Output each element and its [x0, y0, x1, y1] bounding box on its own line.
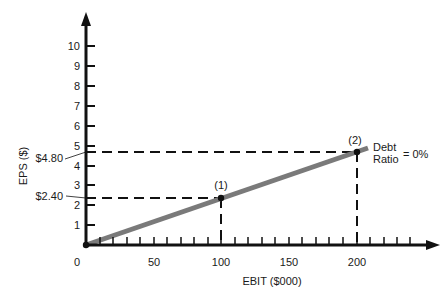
series-label-line2: Ratio [373, 153, 399, 165]
y-tick-label: 2 [74, 199, 80, 211]
eps-series-line [86, 148, 368, 245]
series-label-line1: Debt [373, 141, 396, 153]
y-tick-label: 8 [74, 80, 80, 92]
point-2-marker [354, 149, 360, 155]
point-1-label: (1) [214, 179, 227, 191]
x-tick-label: 100 [212, 256, 230, 268]
series-label-value: = 0% [403, 148, 429, 160]
y-tick-label: 3 [74, 179, 80, 191]
y-axis: 1 2 3 4 5 6 7 8 9 10 [68, 12, 95, 245]
x-axis-title: EBIT ($000) [242, 275, 301, 287]
x-tick-label: 200 [348, 256, 366, 268]
y-tick-label: 9 [74, 60, 80, 72]
y-tick-label: 7 [74, 100, 80, 112]
y-tick-label: 6 [74, 120, 80, 132]
y-tick-label: 5 [74, 140, 80, 152]
eps-ebit-chart: 1 2 3 4 5 6 7 8 9 10 [0, 0, 447, 296]
x-axis: 0 50 100 150 200 [74, 237, 440, 268]
y-axis-arrow-icon [81, 12, 91, 26]
callout-480: $4.80 [35, 152, 63, 164]
callout-240: $2.40 [35, 190, 63, 202]
origin-marker [83, 242, 89, 248]
series-label: Debt Ratio = 0% [373, 141, 429, 165]
x-tick-label: 0 [74, 256, 80, 268]
x-tick-label: 150 [280, 256, 298, 268]
y-tick-label: 1 [74, 219, 80, 231]
y-tick-label: 10 [68, 40, 80, 52]
point-2-label: (2) [348, 134, 361, 146]
y-axis-title: EPS ($) [17, 147, 29, 186]
y-tick-label: 4 [74, 160, 80, 172]
x-axis-arrow-icon [426, 240, 440, 250]
point-1-marker [218, 195, 224, 201]
x-tick-label: 50 [148, 256, 160, 268]
